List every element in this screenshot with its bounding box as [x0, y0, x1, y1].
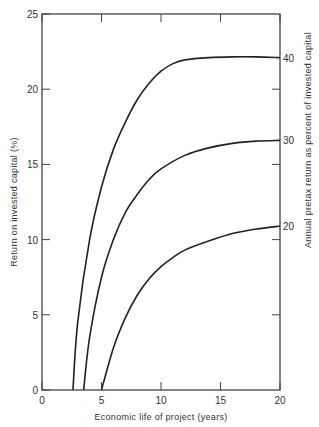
curve-20	[102, 226, 281, 390]
y-axis-title: Return on invested capital (%)	[9, 137, 19, 267]
x-tick-label: 15	[215, 395, 227, 406]
right-tick-label: 30	[283, 135, 295, 146]
y-tick-label: 25	[27, 9, 39, 20]
x-tick-label: 0	[39, 395, 45, 406]
right-tick-label: 40	[283, 53, 295, 64]
y-tick-label: 0	[32, 385, 38, 396]
x-tick-label: 10	[155, 395, 167, 406]
y-tick-label: 20	[27, 84, 39, 95]
y-tick-label: 15	[27, 159, 39, 170]
right-tick-label: 20	[283, 221, 295, 232]
curve-40	[73, 57, 280, 390]
y-axis-right-title: Annual pretax return as percent of inves…	[303, 32, 313, 248]
x-tick-label: 20	[274, 395, 286, 406]
y-tick-label: 10	[27, 235, 39, 246]
x-tick-label: 5	[99, 395, 105, 406]
x-axis-title: Economic life of project (years)	[94, 412, 227, 422]
chart: 051015200510152025403020Economic life of…	[0, 0, 319, 427]
y-tick-label: 5	[32, 310, 38, 321]
curve-30	[84, 140, 280, 390]
